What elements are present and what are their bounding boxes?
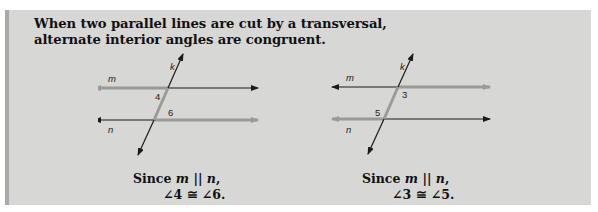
angle-label-3: 3 <box>402 89 407 100</box>
label-n: n <box>346 124 351 135</box>
transversal-k-lower <box>138 120 154 155</box>
theorem-line-2: alternate interior angles are congruent. <box>34 32 454 48</box>
angle-label-4: 4 <box>155 91 160 102</box>
diagram-alternate-angles-3-5: k m n 3 5 <box>328 50 528 165</box>
transversal-k-lower <box>368 119 384 154</box>
caption-congruence: ∠4 ≅ ∠6. <box>133 187 225 203</box>
theorem-statement: When two parallel lines are cut by a tra… <box>34 16 454 48</box>
theorem-line-1: When two parallel lines are cut by a tra… <box>34 16 454 32</box>
caption-var-m: m <box>176 171 189 186</box>
label-n: n <box>108 124 113 135</box>
angle-label-5: 5 <box>375 107 380 118</box>
caption-comma: , <box>445 171 449 186</box>
label-k: k <box>170 61 176 72</box>
diagram-alternate-angles-4-6: k m n 4 6 <box>98 50 298 165</box>
label-m: m <box>108 73 116 84</box>
angle-label-6: 6 <box>168 107 173 118</box>
transversal-k-highlight <box>384 87 398 119</box>
caption-parallel: || <box>422 171 431 186</box>
caption-var-n: n <box>207 171 216 186</box>
caption-1: Since m || n, ∠4 ≅ ∠6. <box>133 171 225 203</box>
caption-since: Since <box>362 171 400 186</box>
caption-comma: , <box>216 171 220 186</box>
label-m: m <box>346 72 354 83</box>
caption-var-n: n <box>436 171 445 186</box>
caption-2: Since m || n, ∠3 ≅ ∠5. <box>362 171 454 203</box>
caption-parallel: || <box>193 171 202 186</box>
caption-since: Since <box>133 171 171 186</box>
caption-congruence: ∠3 ≅ ∠5. <box>362 187 454 203</box>
caption-var-m: m <box>405 171 418 186</box>
